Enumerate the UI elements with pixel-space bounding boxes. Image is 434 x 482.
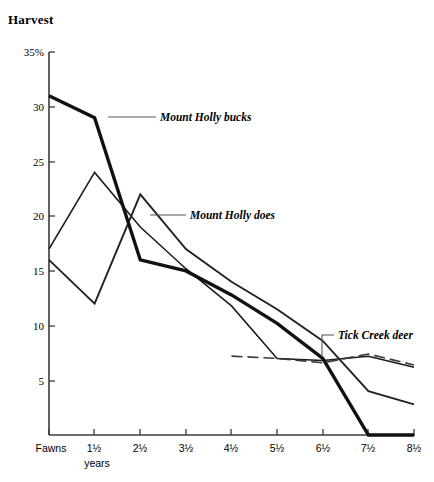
x-tick-label: 1½ xyxy=(87,442,102,454)
annotation-tick-creek-deer: Tick Creek deer xyxy=(322,329,413,357)
y-ticks xyxy=(49,52,55,381)
x-tick-labels: Fawns 1½ 2½ 3½ 4½ 5½ 6½ 7½ 8½ years xyxy=(36,442,422,469)
series-line-mount-holly-does xyxy=(49,194,414,404)
x-tick-label: 8½ xyxy=(407,442,422,454)
annotation-label: Tick Creek deer xyxy=(338,329,413,341)
series-line-mount-holly-bucks xyxy=(49,96,414,435)
y-tick-label: 20 xyxy=(33,210,45,222)
x-tick-label: 3½ xyxy=(179,442,194,454)
y-tick-label: 30 xyxy=(33,101,45,113)
annotation-label: Mount Holly bucks xyxy=(159,111,252,124)
chart-svg: 35% 30 25 20 15 10 5 Fawns 1½ 2½ 3½ 4½ xyxy=(0,0,434,482)
annotation-mount-holly-bucks: Mount Holly bucks xyxy=(108,111,252,124)
x-ticks xyxy=(49,429,414,435)
y-tick-label: 25 xyxy=(33,156,45,168)
annotation-mount-holly-does: Mount Holly does xyxy=(150,209,276,222)
annotation-label: Mount Holly does xyxy=(189,209,276,222)
y-tick-label: 5 xyxy=(39,375,45,387)
figure-caption xyxy=(0,470,434,482)
harvest-chart: Harvest 35% 30 25 20 15 10 5 xyxy=(0,0,434,482)
y-tick-labels: 35% 30 25 20 15 10 5 xyxy=(24,46,45,387)
x-tick-label: 5½ xyxy=(270,442,285,454)
x-tick-label: 4½ xyxy=(224,442,239,454)
x-axis-sublabel: years xyxy=(84,457,110,469)
x-tick-label-fawns: Fawns xyxy=(36,442,67,454)
y-tick-label: 10 xyxy=(33,320,45,332)
x-tick-label: 7½ xyxy=(361,442,376,454)
y-tick-label: 15 xyxy=(33,265,45,277)
x-tick-label: 6½ xyxy=(316,442,331,454)
x-tick-label: 2½ xyxy=(133,442,148,454)
y-tick-label: 35% xyxy=(24,46,44,58)
